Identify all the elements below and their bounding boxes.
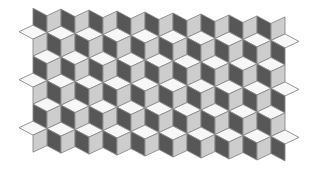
cube-tiling-canvas — [0, 0, 316, 175]
tumbling-blocks-pattern — [19, 8, 299, 162]
